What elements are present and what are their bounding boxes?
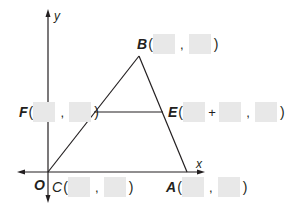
comma: ,	[175, 37, 189, 52]
point-F-y-placeholder[interactable]	[69, 102, 91, 122]
x-axis-arrow-left	[17, 170, 25, 175]
point-A-name: A	[166, 179, 176, 195]
origin-label: O	[34, 177, 45, 193]
point-E-y-placeholder[interactable]	[255, 102, 277, 122]
point-C-label: C ( , )	[52, 176, 133, 198]
comma: ,	[55, 105, 69, 120]
point-A-y-placeholder[interactable]	[218, 177, 240, 197]
y-axis-label: y	[54, 10, 60, 22]
y-axis-arrow-down	[46, 195, 51, 203]
point-A-x-placeholder[interactable]	[182, 177, 204, 197]
point-E-x2-placeholder[interactable]	[219, 102, 241, 122]
point-F-x-placeholder[interactable]	[33, 102, 55, 122]
close-paren: )	[280, 104, 285, 120]
comma: ,	[241, 105, 255, 120]
point-B-y-placeholder[interactable]	[189, 34, 211, 54]
point-F-name: F	[19, 104, 28, 120]
point-C-y-placeholder[interactable]	[104, 177, 126, 197]
point-B-label: B ( , )	[137, 33, 218, 55]
point-E-x1-placeholder[interactable]	[183, 102, 205, 122]
y-axis-arrow-up	[46, 9, 51, 17]
point-C-x-placeholder[interactable]	[68, 177, 90, 197]
point-B-x-placeholder[interactable]	[153, 34, 175, 54]
point-A-label: A ( , )	[166, 176, 247, 198]
point-F-label: F ( , )	[19, 101, 99, 123]
close-paren: )	[214, 36, 219, 52]
point-C-name: C	[52, 179, 62, 195]
plus: +	[205, 105, 219, 120]
comma: ,	[204, 180, 218, 195]
close-paren: )	[94, 104, 99, 120]
close-paren: )	[243, 179, 248, 195]
x-axis-label: x	[196, 158, 202, 170]
close-paren: )	[129, 179, 134, 195]
comma: ,	[90, 180, 104, 195]
point-E-name: E	[168, 104, 177, 120]
point-E-label: E ( + , )	[168, 101, 285, 123]
point-B-name: B	[137, 36, 147, 52]
